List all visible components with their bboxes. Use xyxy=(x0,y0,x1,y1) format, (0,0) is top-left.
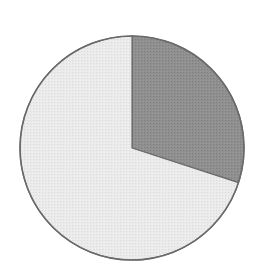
pie-chart xyxy=(0,0,270,277)
pie-chart-svg xyxy=(0,0,270,277)
pie-slices xyxy=(20,36,244,260)
